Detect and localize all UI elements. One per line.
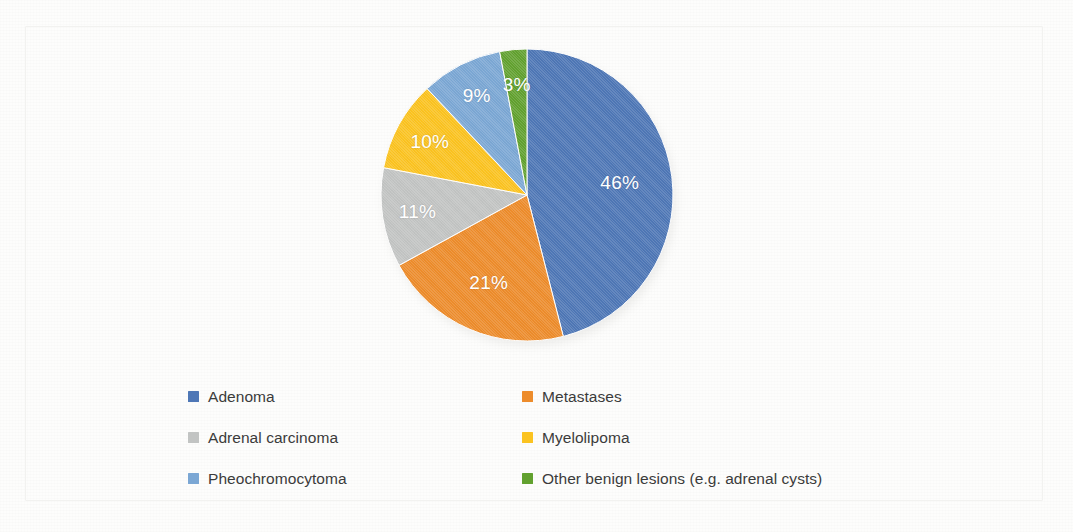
legend-item[interactable]: Adenoma	[188, 376, 522, 417]
chart-legend: AdenomaMetastasesAdrenal carcinomaMyelol…	[188, 376, 908, 499]
legend-item[interactable]: Myelolipoma	[522, 417, 908, 458]
legend-item-label: Other benign lesions (e.g. adrenal cysts…	[542, 470, 822, 488]
legend-item-label: Adenoma	[208, 388, 275, 406]
pie-chart: 46%21%11%10%9%3%	[380, 48, 680, 348]
legend-item[interactable]: Pheochromocytoma	[188, 458, 522, 499]
legend-item-label: Metastases	[542, 388, 622, 406]
legend-item-label: Adrenal carcinoma	[208, 429, 338, 447]
legend-item-label: Pheochromocytoma	[208, 470, 347, 488]
legend-item-label: Myelolipoma	[542, 429, 630, 447]
pie-chart-figure: 46%21%11%10%9%3% AdenomaMetastasesAdrena…	[0, 0, 1073, 532]
legend-item[interactable]: Adrenal carcinoma	[188, 417, 522, 458]
legend-color-swatch-icon	[522, 473, 533, 484]
legend-color-swatch-icon	[188, 432, 199, 443]
legend-item[interactable]: Other benign lesions (e.g. adrenal cysts…	[522, 458, 908, 499]
legend-color-swatch-icon	[522, 391, 533, 402]
pie-slices	[380, 48, 674, 342]
legend-color-swatch-icon	[522, 432, 533, 443]
legend-color-swatch-icon	[188, 473, 199, 484]
legend-item[interactable]: Metastases	[522, 376, 908, 417]
legend-color-swatch-icon	[188, 391, 199, 402]
